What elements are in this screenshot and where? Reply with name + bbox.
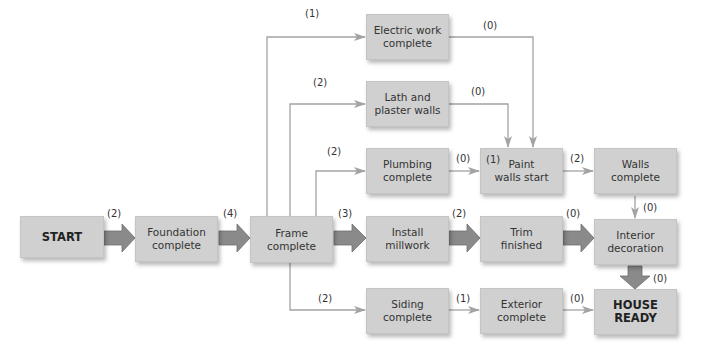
label-siding-exterior: (1) (456, 293, 470, 304)
node-electric: Electric work complete (366, 14, 449, 60)
label-interior-house: (0) (653, 273, 667, 284)
label-electric-paint: (0) (483, 20, 497, 31)
label-millwork-trim: (2) (452, 208, 466, 219)
label-frame-millwork: (3) (338, 208, 352, 219)
label-foundation-frame: (4) (223, 208, 237, 219)
edge-interior-house (620, 266, 650, 289)
node-paint-prefix: (1) (486, 153, 500, 166)
node-exterior: Exterior complete (480, 288, 563, 334)
label-trim-interior: (0) (566, 208, 580, 219)
label-exterior-house: (0) (570, 293, 584, 304)
node-plumbing: Plumbing complete (366, 148, 449, 194)
label-frame-plumbing: (2) (327, 146, 341, 157)
label-frame-lath: (2) (313, 77, 327, 88)
edge-foundation-frame (219, 224, 250, 252)
edge-electric-paint (449, 37, 533, 147)
edge-frame-lath (290, 104, 365, 216)
node-foundation: Foundation complete (135, 216, 218, 262)
node-paint-label: Paint walls start (494, 158, 548, 184)
node-paint: (1) Paint walls start (480, 148, 563, 194)
label-frame-siding: (2) (318, 293, 332, 304)
label-frame-electric: (1) (305, 8, 319, 19)
node-siding: Siding complete (366, 288, 449, 334)
node-walls: Walls complete (594, 148, 677, 194)
node-house-ready: HOUSE READY (594, 289, 677, 335)
label-lath-paint: (0) (471, 86, 485, 97)
edge-trim-interior (563, 224, 594, 252)
label-walls-interior: (0) (643, 202, 657, 213)
node-start: START (20, 216, 104, 258)
node-trim: Trim finished (480, 216, 563, 262)
node-millwork: Install millwork (366, 216, 449, 262)
edge-lath-paint (449, 104, 508, 147)
label-start-foundation: (2) (107, 208, 121, 219)
label-plumbing-paint: (0) (456, 153, 470, 164)
edge-start-foundation (104, 224, 135, 252)
edge-millwork-trim (449, 224, 480, 252)
edge-frame-millwork (334, 224, 366, 252)
node-frame: Frame complete (250, 216, 333, 263)
label-paint-walls: (2) (570, 153, 584, 164)
node-interior: Interior decoration (594, 219, 677, 265)
node-lath: Lath and plaster walls (366, 81, 449, 127)
